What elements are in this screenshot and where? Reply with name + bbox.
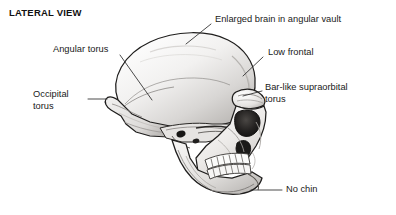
label-supraorbital-torus: Bar-like supraorbital torus [265, 82, 348, 105]
label-enlarged-brain: Enlarged brain in angular vault [215, 14, 341, 26]
figure-lateral-view: LATERAL VIEW [0, 0, 396, 215]
orbit-eye-socket [235, 110, 260, 136]
label-occipital-torus: Occipital torus [33, 89, 69, 112]
label-no-chin: No chin [286, 184, 318, 196]
label-low-frontal: Low frontal [268, 47, 313, 59]
label-angular-torus: Angular torus [53, 44, 108, 56]
